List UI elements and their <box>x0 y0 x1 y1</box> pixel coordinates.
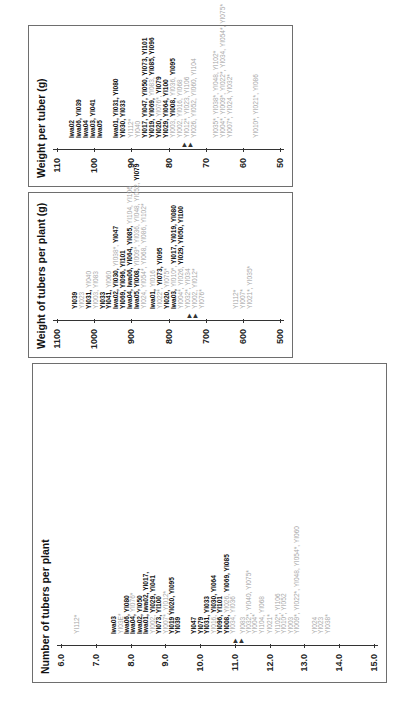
clone-row: YI024, YI054*, YI068, YI086, YI102* <box>140 204 147 309</box>
axis-tick <box>243 319 244 323</box>
clone-label: YI034, YI036 <box>229 596 236 634</box>
axis-tick <box>235 644 236 648</box>
clone-label: YI008, <box>169 96 176 117</box>
clone-row: YI022*, YI073, YI095 <box>156 248 163 309</box>
axis-tick-label: 10.0 <box>195 654 205 680</box>
clone-row: YI104, YI068 <box>258 596 265 634</box>
axis-tick-label: 110 <box>52 158 62 184</box>
axis-tick-label: 900 <box>126 329 136 355</box>
clone-row: YI032*, YI034 <box>184 268 191 309</box>
clone-row: YI010*, YI021*, YI086 <box>252 74 259 138</box>
axis-tick <box>374 644 375 648</box>
axis-line <box>57 645 378 646</box>
axis-tick-label: 14.0 <box>334 654 344 680</box>
clone-label: YI010*, YI021*, YI086 <box>252 74 259 138</box>
axis-tick <box>94 148 95 152</box>
clone-row: YI039 <box>71 292 78 309</box>
axis-tick-label: 6.0 <box>56 654 66 680</box>
clone-label: YI007* <box>239 289 246 309</box>
clone-label: YI031, <box>85 288 92 309</box>
clone-row: Iwa02, YI030, YI038*, YI047 <box>112 226 119 309</box>
clone-label: YI038* <box>324 614 331 634</box>
clone-label: YI039 <box>174 617 181 634</box>
clone-row: Iwa03, YI010*, YI017, YI019, YI080 <box>170 205 177 309</box>
clone-label: Iwa02 <box>68 120 75 138</box>
axis-tick-label: 1000 <box>89 329 99 355</box>
clone-row: YI012*, YI023, YI106 <box>183 77 190 138</box>
clone-row: Iwa04 <box>82 120 89 138</box>
axis-tick-label: 13.0 <box>299 654 309 680</box>
clone-label: YI076* <box>198 289 205 309</box>
clone-row: YI039 <box>174 617 181 634</box>
panel-weight-per-plant: Weight of tubers per plant (g) 110010009… <box>28 192 293 358</box>
axis-tick <box>94 319 95 323</box>
clone-row: YI038* <box>324 614 331 634</box>
clone-label: YI069, YI085 <box>223 554 230 592</box>
clone-label: YI047 <box>112 226 119 243</box>
axis-tick <box>243 148 244 152</box>
clone-label: YI112* <box>73 615 80 634</box>
clone-row: Iwa02 <box>68 120 75 138</box>
clone-label: YI039 <box>75 99 82 116</box>
axis-tick-label: 11.0 <box>230 654 240 680</box>
clone-label: YI032*, YI034 <box>184 268 191 309</box>
clone-label: YI030, YI033 <box>119 100 126 138</box>
panel-number-of-tubers: Number of tubers per plant 6.07.08.09.01… <box>32 363 387 683</box>
clone-row: YI112* <box>73 615 80 634</box>
axis-tick-label: 7.0 <box>91 654 101 680</box>
clone-label: YI040 <box>85 271 92 288</box>
axis-tick-label: 600 <box>238 329 248 355</box>
clone-row: YI034, YI036 <box>229 596 236 634</box>
axis-tick-label: 60 <box>238 158 248 184</box>
clone-label: YI030, <box>112 267 119 288</box>
axis-tick-label: 12.0 <box>265 654 275 680</box>
axis-tick-label: 80 <box>164 158 174 184</box>
clone-row: YI112* <box>127 119 134 138</box>
clone-row: Iwa04, Iwa06, YI064, YI085, YI104, YI106 <box>126 186 133 309</box>
clone-label: Iwa04, Iwa06, <box>126 266 133 309</box>
clone-label: Iwa04 <box>82 120 89 138</box>
axis-tick <box>57 319 58 323</box>
mean-marker-icon: ▶▶ <box>186 313 198 318</box>
clone-label: YI029, YI050, YI100 <box>177 206 184 265</box>
axis-tick <box>270 644 271 648</box>
clone-label: Iwa01, <box>112 116 119 138</box>
clone-row: YI076* <box>198 289 205 309</box>
axis-tick-label: 800 <box>164 329 174 355</box>
clone-row: YI031, YI040 <box>85 271 92 309</box>
axis-tick <box>169 319 170 323</box>
axis-tick-label: 8.0 <box>126 654 136 680</box>
axis-tick <box>200 644 201 648</box>
clone-row: YI007* <box>239 289 246 309</box>
clone-label: YI017, YI047, YI050, YI073, YI101 <box>141 38 148 138</box>
clone-label: YI073, YI095 <box>156 248 163 286</box>
axis-tick-label: 70 <box>201 158 211 184</box>
clone-row: Iwa01, YI031, YI080 <box>112 78 119 138</box>
clone-row: YI021*, YI035* <box>246 266 253 309</box>
clone-label: YI039 <box>71 292 78 309</box>
clone-label: YI022*, <box>156 286 163 309</box>
axis-tick <box>304 644 305 648</box>
panel-title: Weight per tuber (g) <box>35 78 47 178</box>
clone-row: YI026, YI052, YI060, YI104 <box>190 58 197 138</box>
clone-label: YI020, <box>155 117 162 138</box>
axis-tick <box>206 319 207 323</box>
axis-tick-label: 9.0 <box>160 654 170 680</box>
clone-label: YI035*, YI038*, YI048, YI102* <box>212 51 219 138</box>
clone-label: YI033 <box>99 292 106 309</box>
clone-row: YI007*, YI024, YI032* <box>226 74 233 138</box>
clone-label: YI010*, <box>170 264 177 287</box>
clone-label: YI012*, YI023, YI106 <box>183 77 190 138</box>
axis-tick <box>61 644 62 648</box>
clone-row: YI021* <box>266 614 273 634</box>
clone-label: Iwa05 <box>96 120 103 138</box>
clone-label: YI104, YI106 <box>126 186 133 224</box>
axis-tick <box>280 319 281 323</box>
panel-title: Weight of tubers per plant (g) <box>35 203 47 349</box>
clone-label: YI009*, YI022*, YI048, YI054*, YI060 <box>293 526 300 634</box>
axis-tick <box>169 148 170 152</box>
mean-marker-icon: ▶▶ <box>232 638 244 643</box>
clone-row: YI003, YI008, YI036, YI095 <box>169 58 176 138</box>
axis-tick-label: 100 <box>89 158 99 184</box>
clone-row: YI033 <box>99 292 106 309</box>
